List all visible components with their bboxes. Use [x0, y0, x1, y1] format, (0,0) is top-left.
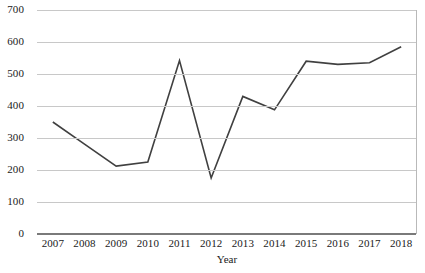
x-axis-title: Year — [37, 253, 417, 266]
gridline — [37, 106, 416, 107]
gridline — [37, 74, 416, 75]
y-axis-tick-label: 600 — [0, 36, 24, 47]
gridline — [37, 42, 416, 43]
y-axis-tick-label: 700 — [0, 4, 24, 15]
line-chart: 0100200300400500600700 20072008200920102… — [0, 0, 425, 273]
y-axis-tick-label: 500 — [0, 68, 24, 79]
x-axis-tick-label: 2018 — [381, 237, 421, 249]
x-axis-tick-labels: 2007200820092010201120122013201420152016… — [37, 237, 417, 253]
gridline — [37, 170, 416, 171]
gridline — [37, 10, 416, 11]
y-axis-tick-label: 400 — [0, 100, 24, 111]
x-axis-line — [37, 233, 416, 235]
y-axis-tick-label: 300 — [0, 132, 24, 143]
gridline — [37, 138, 416, 139]
data-series-line — [37, 10, 417, 234]
y-axis-tick-label: 100 — [0, 196, 24, 207]
y-axis-tick-label: 200 — [0, 164, 24, 175]
series-polyline — [53, 47, 401, 178]
plot-area: 0100200300400500600700 — [37, 10, 417, 234]
y-axis-tick-label: 0 — [0, 228, 24, 239]
gridline — [37, 202, 416, 203]
